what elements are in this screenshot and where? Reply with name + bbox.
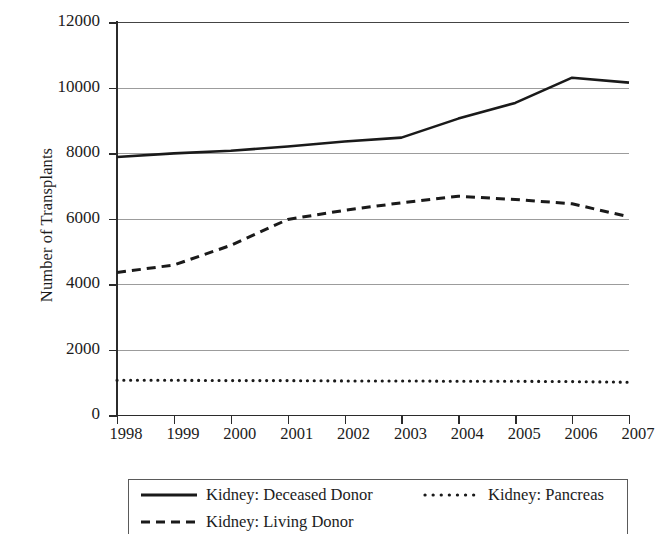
y-tick-label: 0 xyxy=(4,404,100,424)
x-tick-mark xyxy=(629,415,630,424)
y-tick-label: 4000 xyxy=(4,273,100,293)
y-tick-label: 12000 xyxy=(4,11,100,31)
y-tick-label: 8000 xyxy=(4,142,100,162)
legend-solid-line-icon xyxy=(141,488,197,502)
x-tick-label: 2007 xyxy=(622,424,655,444)
legend-item-kidney-pancreas: Kidney: Pancreas xyxy=(423,481,604,508)
x-axis-line xyxy=(110,415,629,417)
x-tick-mark xyxy=(401,415,402,424)
legend: Kidney: Deceased Donor Kidney: Living Do… xyxy=(128,479,628,534)
x-tick-mark xyxy=(231,415,232,424)
x-tick-label: 2006 xyxy=(565,424,598,444)
gridline xyxy=(117,88,629,89)
series-kidney-deceased-donor xyxy=(117,78,629,157)
x-tick-mark xyxy=(345,415,346,424)
x-tick-label: 2005 xyxy=(508,424,541,444)
y-tick-label: 6000 xyxy=(4,208,100,228)
legend-item-kidney-living-donor: Kidney: Living Donor xyxy=(141,508,354,534)
x-tick-label: 2004 xyxy=(451,424,484,444)
legend-label: Kidney: Pancreas xyxy=(488,485,604,505)
x-tick-mark xyxy=(288,415,289,424)
gridline xyxy=(117,219,629,220)
gridline xyxy=(117,22,629,23)
x-tick-label: 2002 xyxy=(337,424,370,444)
legend-item-kidney-deceased-donor: Kidney: Deceased Donor xyxy=(141,481,373,508)
legend-dotted-line-icon xyxy=(423,488,479,502)
legend-label: Kidney: Deceased Donor xyxy=(206,485,373,505)
series-kidney-living-donor xyxy=(117,196,629,272)
x-tick-label: 1999 xyxy=(166,424,199,444)
x-tick-label: 1998 xyxy=(110,424,143,444)
x-tick-mark xyxy=(572,415,573,424)
series-kidney-pancreas xyxy=(117,380,629,382)
x-tick-mark xyxy=(117,415,118,424)
y-tick-label: 2000 xyxy=(4,339,100,359)
x-tick-mark xyxy=(458,415,459,424)
y-tick-label: 10000 xyxy=(4,77,100,97)
x-tick-label: 2001 xyxy=(280,424,313,444)
y-axis-line xyxy=(116,21,118,416)
x-tick-label: 2000 xyxy=(223,424,256,444)
x-tick-label: 2003 xyxy=(394,424,427,444)
gridline xyxy=(117,284,629,285)
legend-dashed-line-icon xyxy=(141,515,197,529)
gridline xyxy=(117,153,629,154)
x-tick-mark xyxy=(174,415,175,424)
legend-label: Kidney: Living Donor xyxy=(206,512,354,532)
gridline xyxy=(117,350,629,351)
x-tick-mark xyxy=(515,415,516,424)
